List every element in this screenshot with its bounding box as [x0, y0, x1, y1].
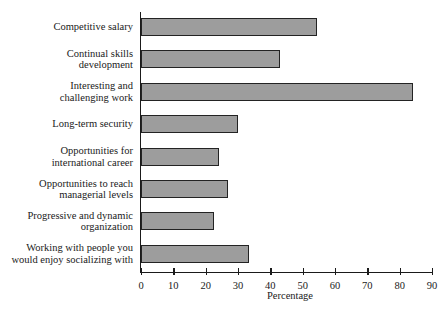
x-tick — [335, 268, 336, 275]
bar — [141, 180, 228, 198]
category-label: Opportunities for international career — [0, 145, 137, 168]
bar — [141, 148, 219, 166]
category-label: Progressive and dynamic organization — [0, 210, 137, 233]
category-label: Long-term security — [0, 118, 137, 130]
x-tick — [206, 268, 207, 275]
bar — [141, 50, 280, 68]
x-tick — [400, 268, 401, 275]
plot-area: 0102030405060708090 — [141, 12, 432, 272]
category-label: Working with people you would enjoy soci… — [0, 242, 137, 265]
category-label: Interesting and challenging work — [0, 80, 137, 103]
category-axis-labels: Competitive salaryContinual skills devel… — [0, 0, 137, 290]
bar — [141, 18, 317, 36]
bar — [141, 245, 249, 263]
category-label: Continual skills development — [0, 48, 137, 71]
bar — [141, 212, 214, 230]
category-label: Competitive salary — [0, 21, 137, 33]
x-axis-title: Percentage — [0, 290, 446, 301]
x-tick — [303, 268, 304, 275]
x-tick — [367, 268, 368, 275]
bar — [141, 115, 238, 133]
x-tick — [270, 268, 271, 275]
x-tick — [238, 268, 239, 275]
category-label: Opportunities to reach managerial levels — [0, 178, 137, 201]
x-tick — [432, 268, 433, 275]
bar — [141, 83, 413, 101]
bar-chart: Competitive salaryContinual skills devel… — [0, 0, 446, 316]
x-axis-title-text: Percentage — [267, 290, 313, 301]
x-tick — [173, 268, 174, 275]
x-axis-line — [140, 272, 432, 273]
x-tick — [141, 268, 142, 275]
